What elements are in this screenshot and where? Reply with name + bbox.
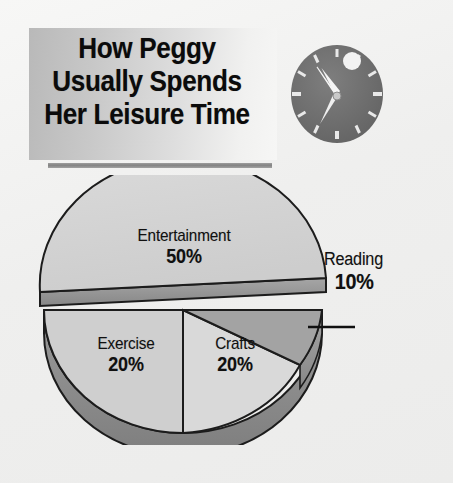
pie-chart-svg bbox=[0, 175, 453, 445]
slice-label-exercise-name: Exercise bbox=[63, 335, 189, 352]
slice-label-reading-name: Reading bbox=[324, 250, 430, 268]
slice-label-crafts: Crafts 20% bbox=[177, 335, 294, 377]
poster-canvas: How Peggy Usually Spends Her Leisure Tim… bbox=[0, 0, 453, 483]
title-divider-rule bbox=[48, 163, 272, 168]
slice-label-entertainment-name: Entertainment bbox=[94, 227, 274, 244]
page-title: How Peggy Usually Spends Her Leisure Tim… bbox=[30, 32, 264, 131]
clock-dot-marker bbox=[343, 52, 361, 70]
clock-svg bbox=[290, 44, 386, 144]
slice-label-exercise: Exercise 20% bbox=[63, 335, 189, 377]
analog-clock-icon bbox=[290, 44, 386, 144]
clock-center-hub bbox=[333, 92, 341, 100]
slice-label-crafts-name: Crafts bbox=[177, 335, 294, 352]
slice-label-crafts-value: 20% bbox=[177, 352, 294, 377]
slice-label-exercise-value: 20% bbox=[63, 352, 189, 377]
pie-chart: Entertainment 50% Exercise 20% Crafts 20… bbox=[0, 175, 453, 445]
slice-label-entertainment-value: 50% bbox=[94, 244, 274, 269]
slice-label-reading: Reading 10% bbox=[324, 250, 430, 296]
slice-label-reading-value: 10% bbox=[324, 268, 430, 296]
slice-label-entertainment: Entertainment 50% bbox=[94, 227, 274, 269]
